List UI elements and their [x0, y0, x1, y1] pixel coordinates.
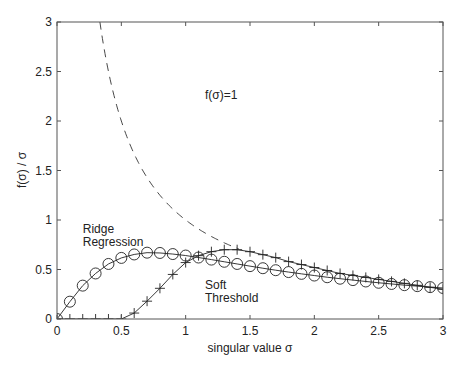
y-axis-label: f(σ) / σ: [15, 151, 29, 188]
y-tick-label: 3: [45, 15, 52, 29]
x-tick-label: 3: [440, 324, 447, 338]
y-tick-label: 0.5: [35, 263, 52, 277]
x-tick-label: 2: [311, 324, 318, 338]
plot-area: f(σ)=1RidgeRegressionSoftThreshold: [52, 22, 449, 325]
axes: 00.511.522.5300.511.522.53: [35, 15, 446, 338]
y-tick-label: 1: [45, 213, 52, 227]
y-tick-label: 0: [45, 312, 52, 326]
annotation-label: f(σ)=1: [205, 88, 238, 102]
axes-frame: [57, 22, 443, 319]
y-tick-label: 2: [45, 114, 52, 128]
annotation-label: Regression: [83, 235, 144, 249]
series-f-1-line: [100, 22, 239, 249]
x-tick-label: 1.5: [242, 324, 259, 338]
y-tick-label: 2.5: [35, 65, 52, 79]
series-ridge-regression-line: [57, 253, 443, 319]
x-tick-label: 2.5: [370, 324, 387, 338]
x-tick-label: 1: [182, 324, 189, 338]
x-tick-label: 0.5: [113, 324, 130, 338]
x-tick-label: 0: [54, 324, 61, 338]
chart: f(σ)=1RidgeRegressionSoftThreshold 00.51…: [0, 0, 467, 367]
series-soft-threshold-line: [57, 250, 443, 319]
x-axis-label: singular value σ: [208, 341, 293, 355]
annotation-label: Threshold: [205, 291, 258, 305]
y-tick-label: 1.5: [35, 164, 52, 178]
